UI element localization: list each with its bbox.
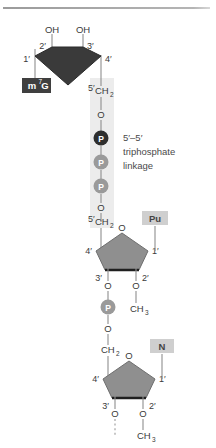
linkage-annotation-line3: linkage — [123, 160, 153, 171]
mid-carbon-4prime-label: 4′ — [85, 246, 92, 256]
low-methyl-subscript: 3 — [152, 436, 156, 443]
triphosphate-oxygen-top-label: O — [97, 109, 104, 120]
triphosphate-oxygen-bottom-label: O — [97, 202, 104, 213]
low-o3-label: O — [111, 408, 118, 419]
cap-carbon-1prime-label: 1′ — [23, 54, 30, 64]
mid-ch2-subscript: 2 — [110, 222, 114, 229]
cap-carbon-3prime-label: 3′ — [87, 41, 94, 51]
low-ch2-label: CH — [101, 344, 115, 355]
phosphate-2-label: P — [98, 158, 104, 168]
low-methyl-label: CH — [137, 430, 151, 441]
mid-carbon-5prime-label: 5′ — [88, 214, 95, 224]
cap-carbon-5prime-label: 5′ — [88, 83, 95, 93]
low-ring-oxygen-label: O — [125, 350, 132, 361]
mid-sugar-ring — [96, 233, 148, 270]
cap-oh-right-label: OH — [76, 24, 90, 35]
mid-base-label: Pu — [149, 213, 161, 224]
diagram-canvas: OH OH 2′ 3′ 1′ 4′ m 7 G 5′ CH 2 O P P P … — [0, 0, 216, 448]
mid-ch2-label: CH — [95, 216, 109, 227]
phosphate-1-label: P — [98, 134, 104, 144]
phosphate-3-label: P — [98, 182, 104, 192]
low-base-label: N — [159, 341, 166, 352]
cap-carbon-4prime-label: 4′ — [105, 54, 112, 64]
mid-phosphate-o-bottom-label: O — [104, 323, 111, 334]
cap-oh-left-label: OH — [45, 24, 59, 35]
cap-base-label-tail: G — [41, 80, 48, 91]
linkage-annotation-line2: triphosphate — [123, 146, 175, 157]
cap-ch2-label: CH — [95, 85, 109, 96]
mid-phosphate-label: P — [105, 303, 111, 313]
linkage-annotation-line1: 5′–5′ — [123, 132, 143, 143]
cap-ch2-subscript: 2 — [110, 91, 114, 98]
mid-methyl-subscript: 3 — [145, 309, 149, 316]
low-carbon-3prime-label: 3′ — [102, 401, 109, 411]
low-o2-label: O — [139, 408, 146, 419]
cap-base-label: m — [28, 80, 36, 91]
low-sugar-ring — [103, 361, 155, 398]
mid-ring-oxygen-label: O — [118, 222, 125, 233]
cap-carbon-2prime-label: 2′ — [39, 41, 46, 51]
low-ch2-subscript: 2 — [116, 350, 120, 357]
mid-carbon-3prime-label: 3′ — [95, 273, 102, 283]
mid-o2-label: O — [132, 280, 139, 291]
mid-o3-label: O — [104, 280, 111, 291]
low-carbon-4prime-label: 4′ — [92, 374, 99, 384]
low-carbon-2prime-label: 2′ — [149, 401, 156, 411]
mid-carbon-2prime-label: 2′ — [142, 273, 149, 283]
mrna-cap-diagram: OH OH 2′ 3′ 1′ 4′ m 7 G 5′ CH 2 O P P P … — [0, 0, 216, 448]
mid-methyl-label: CH — [130, 303, 144, 314]
